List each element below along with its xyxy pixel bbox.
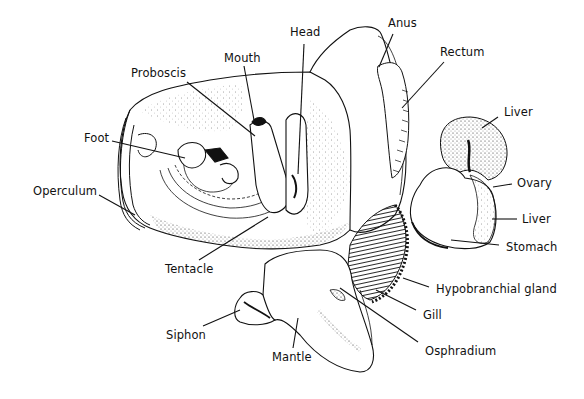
leader-line-rectum [402, 62, 444, 108]
label-hypobranchial-gland: Hypobranchial gland [436, 284, 557, 296]
label-foot: Foot [84, 133, 109, 145]
leader-line-hypobranchial-gland [403, 278, 429, 287]
label-head: Head [290, 27, 320, 39]
label-liver-upper: Liver [504, 107, 533, 119]
label-operculum: Operculum [33, 186, 97, 198]
leader-line-gill [376, 290, 416, 310]
label-siphon: Siphon [166, 330, 206, 342]
leader-line-ovary [493, 184, 512, 187]
label-liver-lower: Liver [522, 214, 551, 226]
label-mouth: Mouth [224, 53, 261, 65]
label-proboscis: Proboscis [131, 68, 186, 80]
snail-anatomy-illustration [0, 0, 584, 399]
label-rectum: Rectum [440, 47, 484, 59]
label-stomach: Stomach [506, 242, 557, 254]
snail-anatomy-diagram: Head Anus Mouth Rectum Proboscis Liver F… [0, 0, 584, 399]
label-anus: Anus [388, 18, 417, 30]
label-mantle: Mantle [272, 352, 312, 364]
label-gill: Gill [423, 310, 442, 322]
label-tentacle: Tentacle [165, 264, 213, 276]
label-ovary: Ovary [517, 178, 552, 190]
leader-line-siphon [203, 310, 240, 326]
label-osphradium: Osphradium [425, 346, 496, 358]
